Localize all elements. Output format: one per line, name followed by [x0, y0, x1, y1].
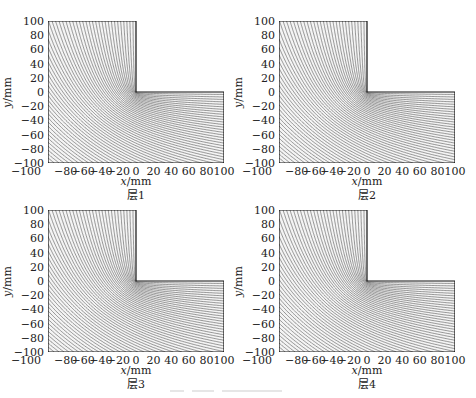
y-tick-label: 100 — [235, 16, 275, 27]
x-tick-label: −100 — [242, 355, 272, 366]
y-tick-label: 40 — [235, 248, 275, 259]
contour-plot — [48, 21, 224, 163]
y-tick-label: −80 — [4, 333, 44, 344]
x-tick-label: 40 — [395, 166, 409, 177]
y-tick-label: −40 — [4, 304, 44, 315]
x-tick-label: 60 — [182, 166, 196, 177]
panel-caption: 层4 — [358, 375, 376, 391]
y-tick-label: −80 — [4, 144, 44, 155]
y-tick-label: −40 — [235, 304, 275, 315]
y-tick-label: 80 — [235, 219, 275, 230]
contour-plot — [279, 21, 455, 163]
x-tick-label: 80 — [199, 166, 213, 177]
x-tick-label: 40 — [164, 355, 178, 366]
x-tick-label: 80 — [199, 355, 213, 366]
y-tick-label: 100 — [235, 205, 275, 216]
y-tick-label: −60 — [235, 319, 275, 330]
y-tick-label: −60 — [4, 130, 44, 141]
x-tick-label: −100 — [11, 166, 41, 177]
y-tick-label: −40 — [235, 115, 275, 126]
y-tick-label: −80 — [235, 333, 275, 344]
y-tick-label: 100 — [4, 16, 44, 27]
contour-plot — [279, 210, 455, 352]
contour-panel-1: 100806040200−20−40−60−80−100−100−80−60−4… — [0, 0, 238, 190]
y-tick-label: −40 — [4, 115, 44, 126]
x-tick-label: 40 — [395, 355, 409, 366]
y-axis-label: y/mm — [1, 266, 14, 297]
y-tick-label: 40 — [4, 248, 44, 259]
x-tick-label: 80 — [430, 166, 444, 177]
contour-panel-4: 100806040200−20−40−60−80−100−100−80−60−4… — [231, 189, 469, 379]
x-tick-label: −100 — [242, 166, 272, 177]
y-tick-label: 80 — [4, 219, 44, 230]
panel-caption: 层3 — [127, 375, 145, 391]
x-tick-label: 100 — [445, 355, 466, 366]
y-tick-label: 40 — [4, 59, 44, 70]
contour-panel-3: 100806040200−20−40−60−80−100−100−80−60−4… — [0, 189, 238, 379]
figure-caption-illegible — [170, 390, 310, 398]
y-tick-label: 60 — [235, 233, 275, 244]
y-tick-label: 100 — [4, 205, 44, 216]
y-tick-label: 80 — [235, 30, 275, 41]
y-tick-label: −60 — [4, 319, 44, 330]
x-tick-label: 60 — [413, 355, 427, 366]
y-tick-label: −60 — [235, 130, 275, 141]
y-tick-label: 60 — [4, 233, 44, 244]
x-tick-label: 40 — [164, 166, 178, 177]
x-tick-label: −100 — [11, 355, 41, 366]
contour-panel-2: 100806040200−20−40−60−80−100−100−80−60−4… — [231, 0, 469, 190]
y-tick-label: 60 — [235, 44, 275, 55]
y-tick-label: 80 — [4, 30, 44, 41]
contour-plot — [48, 210, 224, 352]
x-tick-label: 80 — [430, 355, 444, 366]
y-tick-label: 40 — [235, 59, 275, 70]
y-tick-label: −80 — [235, 144, 275, 155]
y-axis-label: y/mm — [232, 77, 245, 108]
y-tick-label: 60 — [4, 44, 44, 55]
x-tick-label: 60 — [413, 166, 427, 177]
x-tick-label: 60 — [182, 355, 196, 366]
y-axis-label: y/mm — [232, 266, 245, 297]
x-tick-label: 100 — [445, 166, 466, 177]
y-axis-label: y/mm — [1, 77, 14, 108]
